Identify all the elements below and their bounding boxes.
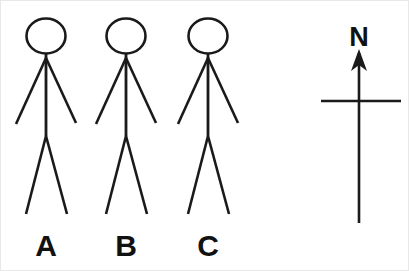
left-leg-line xyxy=(106,136,126,214)
head-icon xyxy=(27,19,66,54)
left-leg-line xyxy=(26,136,46,214)
figure-label-c: C xyxy=(197,229,219,262)
right-arm-line xyxy=(126,58,156,123)
left-arm-line xyxy=(178,58,208,124)
left-leg-line xyxy=(188,136,208,214)
figure-label-b: B xyxy=(115,229,137,262)
right-leg-line xyxy=(208,136,229,214)
head-icon xyxy=(189,19,228,54)
compass-rose: N xyxy=(321,22,401,223)
illustration-canvas: A B C N xyxy=(0,0,409,271)
figure-label-a: A xyxy=(35,229,57,262)
left-arm-line xyxy=(96,58,126,124)
stick-figure-a: A xyxy=(16,19,76,263)
left-arm-line xyxy=(16,58,46,124)
right-arm-line xyxy=(208,58,238,123)
head-icon xyxy=(107,19,146,54)
stick-figure-c: C xyxy=(178,19,238,263)
right-arm-line xyxy=(46,58,76,123)
stick-figure-b: B xyxy=(96,19,156,263)
compass-north-label: N xyxy=(349,22,369,52)
right-leg-line xyxy=(126,136,147,214)
stick-figure-diagram: A B C N xyxy=(1,1,409,271)
right-leg-line xyxy=(46,136,67,214)
